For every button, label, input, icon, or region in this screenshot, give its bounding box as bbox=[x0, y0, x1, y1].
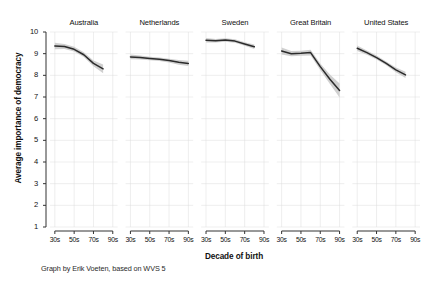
y-tick-10: 10 bbox=[26, 27, 38, 36]
y-tick-8: 8 bbox=[26, 70, 38, 79]
x-tick-p4-90s: 90s bbox=[407, 236, 423, 243]
x-tick-p0-50s: 50s bbox=[66, 236, 82, 243]
x-tick-p3-90s: 90s bbox=[332, 236, 348, 243]
x-tick-p2-30s: 30s bbox=[198, 236, 214, 243]
x-tick-p2-90s: 90s bbox=[256, 236, 272, 243]
panel-title-united-states: United States bbox=[352, 18, 420, 27]
x-tick-p4-50s: 50s bbox=[369, 236, 385, 243]
x-tick-p3-70s: 70s bbox=[312, 236, 328, 243]
x-tick-p1-30s: 30s bbox=[122, 236, 138, 243]
y-tick-6: 6 bbox=[26, 114, 38, 123]
x-tick-p3-50s: 50s bbox=[293, 236, 309, 243]
x-tick-p1-90s: 90s bbox=[180, 236, 196, 243]
panel-title-australia: Australia bbox=[50, 18, 118, 27]
x-tick-p3-30s: 30s bbox=[274, 236, 290, 243]
y-tick-5: 5 bbox=[26, 135, 38, 144]
x-tick-p0-90s: 90s bbox=[105, 236, 121, 243]
chart-figure: Average importance of democracy Decade o… bbox=[0, 0, 424, 281]
x-tick-p0-70s: 70s bbox=[85, 236, 101, 243]
y-tick-1: 1 bbox=[26, 222, 38, 231]
x-tick-p4-70s: 70s bbox=[388, 236, 404, 243]
y-tick-4: 4 bbox=[26, 157, 38, 166]
panel-title-netherlands: Netherlands bbox=[126, 18, 194, 27]
x-tick-p1-50s: 50s bbox=[142, 236, 158, 243]
x-tick-p2-70s: 70s bbox=[237, 236, 253, 243]
x-axis-title: Decade of birth bbox=[44, 252, 424, 261]
y-tick-7: 7 bbox=[26, 92, 38, 101]
y-tick-3: 3 bbox=[26, 179, 38, 188]
x-tick-p1-70s: 70s bbox=[161, 236, 177, 243]
chart-caption: Graph by Erik Voeten, based on WVS 5 bbox=[41, 264, 166, 273]
y-tick-9: 9 bbox=[26, 49, 38, 58]
x-tick-p0-30s: 30s bbox=[47, 236, 63, 243]
x-tick-p4-30s: 30s bbox=[349, 236, 365, 243]
panel-title-sweden: Sweden bbox=[201, 18, 269, 27]
y-tick-2: 2 bbox=[26, 200, 38, 209]
panel-title-great-britain: Great Britain bbox=[277, 18, 345, 27]
x-tick-p2-50s: 50s bbox=[217, 236, 233, 243]
